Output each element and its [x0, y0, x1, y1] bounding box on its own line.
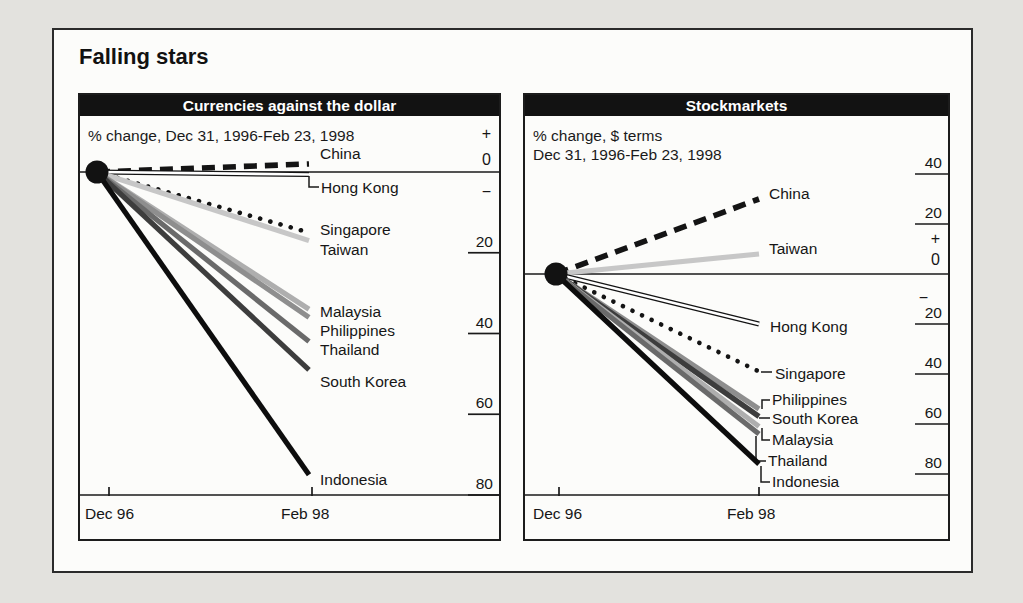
- plus-sign: +: [482, 124, 491, 144]
- label-connector: [309, 176, 319, 187]
- series-line-thailand: [97, 172, 309, 342]
- label-connector: [762, 428, 770, 440]
- series-line-indonesia: [556, 274, 759, 464]
- series-label-philippines: Philippines: [320, 321, 395, 341]
- y-tick-label: 40: [476, 313, 493, 333]
- y-tick-label: 40: [925, 353, 942, 373]
- y-tick-label: 60: [925, 403, 942, 423]
- series-label-thailand: Thailand: [320, 340, 379, 360]
- currencies-plot: [80, 95, 499, 539]
- series-label-taiwan: Taiwan: [769, 239, 817, 259]
- series-label-south-korea: South Korea: [772, 409, 858, 429]
- panel-header-stockmarkets: Stockmarkets: [525, 95, 948, 116]
- plus-sign: +: [931, 229, 940, 249]
- y-tick-label: 20: [476, 232, 493, 252]
- series-label-china: China: [769, 184, 810, 204]
- x-tick-label-dec96: Dec 96: [85, 504, 134, 524]
- minus-sign: −: [482, 182, 491, 202]
- label-connector: [762, 400, 770, 409]
- y-tick-label: 20: [925, 203, 942, 223]
- panel-stockmarkets: Stockmarkets % change, $ terms Dec 31, 1…: [523, 93, 950, 541]
- x-tick-label-feb98: Feb 98: [281, 504, 329, 524]
- series-label-singapore: Singapore: [320, 220, 391, 240]
- series-label-taiwan: Taiwan: [320, 240, 368, 260]
- series-label-malaysia: Malaysia: [320, 302, 381, 322]
- series-label-south-korea: South Korea: [320, 372, 406, 392]
- x-tick-label-dec96: Dec 96: [533, 504, 582, 524]
- y-tick-label: 40: [925, 153, 942, 173]
- x-tick-label-feb98: Feb 98: [727, 504, 775, 524]
- series-label-hong-kong: Hong Kong: [321, 178, 399, 198]
- y-tick-label: 80: [925, 453, 942, 473]
- series-label-malaysia: Malaysia: [772, 430, 833, 450]
- series-line-philippines: [97, 172, 309, 317]
- origin-dot: [545, 263, 568, 286]
- series-label-indonesia: Indonesia: [772, 472, 839, 492]
- series-label-hong-kong: Hong Kong: [770, 317, 848, 337]
- chart-title: Falling stars: [79, 44, 209, 70]
- origin-dot: [86, 161, 109, 184]
- series-label-philippines: Philippines: [772, 390, 847, 410]
- chart-figure: Falling stars Currencies against the dol…: [52, 28, 973, 573]
- panel-header-currencies: Currencies against the dollar: [80, 95, 499, 116]
- series-label-singapore: Singapore: [775, 364, 846, 384]
- subtitle-stockmarkets-line2: Dec 31, 1996-Feb 23, 1998: [533, 145, 722, 164]
- minus-sign: −: [919, 288, 928, 308]
- series-line-indonesia: [97, 172, 309, 475]
- series-line-taiwan: [97, 172, 309, 241]
- page-background: Falling stars Currencies against the dol…: [0, 0, 1023, 603]
- y-tick-label: 80: [476, 474, 493, 494]
- subtitle-currencies: % change, Dec 31, 1996-Feb 23, 1998: [88, 126, 354, 145]
- series-label-indonesia: Indonesia: [320, 470, 387, 490]
- series-label-thailand: Thailand: [768, 451, 827, 471]
- zero-label: 0: [482, 150, 491, 170]
- y-tick-label: 60: [476, 393, 493, 413]
- panel-currencies: Currencies against the dollar % change, …: [78, 93, 501, 541]
- series-line-south-korea: [97, 172, 309, 370]
- zero-label: 0: [931, 250, 940, 270]
- subtitle-stockmarkets-line1: % change, $ terms: [533, 126, 662, 145]
- series-label-china: China: [320, 144, 361, 164]
